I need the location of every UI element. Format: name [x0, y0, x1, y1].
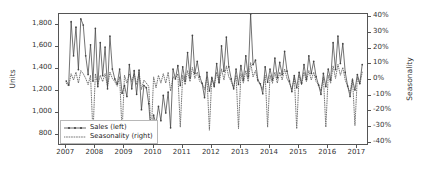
x-tick-mark [211, 145, 212, 148]
y2-tick-label: 10% [373, 59, 389, 66]
y-tick-label: 1,000 [0, 108, 52, 115]
x-tick-mark [123, 145, 124, 148]
y-tick-label: 1,200 [0, 86, 52, 93]
y2-tick-mark [368, 32, 371, 33]
series-sales [65, 14, 363, 137]
y-tick-label: 1,800 [0, 20, 52, 27]
x-tick-mark [327, 145, 328, 148]
x-tick-mark [65, 145, 66, 148]
y2-tick-mark [368, 16, 371, 17]
legend-label-sales: Sales (left) [90, 123, 127, 132]
x-tick-mark [182, 145, 183, 148]
x-tick-mark [153, 145, 154, 148]
y2-tick-mark [368, 95, 371, 96]
y2-tick-label: -40% [373, 138, 391, 145]
x-tick-mark [94, 145, 95, 148]
y2-tick-label: -30% [373, 122, 391, 129]
y-tick-mark [55, 90, 58, 91]
y2-tick-mark [368, 48, 371, 49]
y2-tick-label: -10% [373, 91, 391, 98]
legend-item-sales: Sales (left) [64, 123, 153, 132]
y-tick-mark [55, 112, 58, 113]
y-tick-mark [55, 24, 58, 25]
y2-tick-mark [368, 142, 371, 143]
y2-tick-label: 40% [373, 12, 389, 19]
y2-tick-label: 30% [373, 28, 389, 35]
y-axis-label: Units [7, 13, 19, 145]
x-tick-label: 2017 [336, 149, 376, 156]
x-tick-mark [240, 145, 241, 148]
x-tick-mark [298, 145, 299, 148]
legend-label-seasonality: Seasonality (right) [90, 132, 153, 141]
figure: Units Seasonality Sales (left) Seasonali… [0, 0, 424, 175]
y2-tick-label: 0% [373, 75, 384, 82]
y2-tick-mark [368, 63, 371, 64]
y2-tick-mark [368, 110, 371, 111]
y2-tick-mark [368, 79, 371, 80]
y2-tick-label: -20% [373, 106, 391, 113]
y-tick-label: 1,600 [0, 42, 52, 49]
y-tick-mark [55, 134, 58, 135]
x-tick-mark [356, 145, 357, 148]
y2-tick-mark [368, 126, 371, 127]
y-tick-mark [55, 68, 58, 69]
legend-swatch-sales-icon [64, 124, 86, 132]
y2-axis-label: Seasonality [404, 13, 416, 145]
y2-tick-label: 20% [373, 44, 389, 51]
x-tick-mark [269, 145, 270, 148]
y-tick-label: 1,400 [0, 64, 52, 71]
y-tick-mark [55, 46, 58, 47]
legend: Sales (left) Seasonality (right) [60, 120, 158, 144]
legend-item-seasonality: Seasonality (right) [64, 132, 153, 141]
legend-swatch-seasonality-icon [64, 133, 86, 141]
y-tick-label: 800 [0, 130, 52, 137]
